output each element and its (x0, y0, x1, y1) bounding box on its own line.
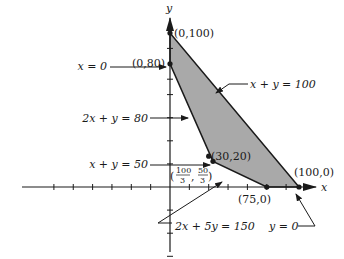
x-axis-label: x (321, 181, 328, 194)
frac2-den: 3 (200, 176, 205, 185)
constraint-label-x-plus-y-eq-50: x + y = 50 (89, 158, 148, 171)
point-label-100-3-50-3: ( 100 3 , 50 3 ) (170, 166, 212, 185)
frac1-den: 3 (180, 176, 185, 185)
point-label-30-20: (30,20) (211, 150, 251, 163)
point-label-75-0: (75,0) (238, 193, 271, 206)
constraint-label-x-plus-y-eq-100: x + y = 100 (250, 78, 316, 91)
vertex-point (264, 184, 269, 189)
constraint-label-2x-plus-y-eq-80: 2x + y = 80 (81, 112, 148, 125)
y-axis-label: y (165, 2, 173, 15)
vertex-point (167, 61, 172, 66)
point-label-0-80: (0,80) (132, 57, 165, 70)
paren-open: ( (170, 170, 174, 183)
frac2-num: 50 (198, 166, 208, 175)
vertex-point (167, 30, 172, 35)
linear-programming-diagram: x y (0,100) (0,80) (30,20) ( 100 3 , 50 … (0, 0, 344, 259)
arrow-2x-plus-5y-eq-150 (158, 182, 222, 223)
constraint-label-2x-plus-5y-eq-150: 2x + 5y = 150 (174, 220, 255, 233)
constraint-label-x-eq-0: x = 0 (78, 60, 107, 73)
paren-close: ) (208, 170, 212, 183)
point-label-100-0: (100,0) (294, 166, 334, 179)
point-label-0-100: (0,100) (174, 27, 214, 40)
arrow-y-eq-0 (296, 194, 315, 226)
feasible-region (170, 33, 299, 187)
frac1-num: 100 (176, 166, 191, 175)
vertex-point (296, 184, 301, 189)
arrow-x-plus-y-eq-100 (216, 84, 248, 93)
comma: , (191, 170, 195, 183)
constraint-label-y-eq-0: y = 0 (268, 220, 298, 233)
